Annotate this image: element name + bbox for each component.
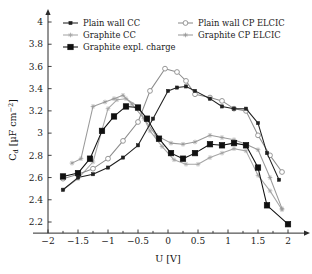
data-point-marker (99, 128, 104, 133)
data-point-marker (121, 138, 126, 143)
x-tick-label: 0 (165, 236, 171, 246)
legend-label-plain-wall-cp-elcic: Plain wall CP ELCIC (198, 18, 285, 28)
x-axis-title: U [V] (155, 253, 180, 264)
data-point-marker (256, 122, 259, 125)
data-point-marker (111, 114, 116, 119)
data-point-marker (220, 105, 223, 108)
x-tick-label: −0.5 (127, 236, 149, 246)
data-point-marker (123, 104, 128, 109)
data-point-marker (285, 222, 290, 227)
y-tick-label: 3.2 (29, 106, 43, 116)
legend-label-plain-wall-cc: Plain wall CC (83, 18, 140, 28)
y-tick-label: 3.8 (29, 39, 44, 49)
data-point-marker (277, 178, 280, 181)
data-point-marker (69, 21, 72, 24)
series-line (63, 86, 279, 189)
y-axis-title: Cd [µF cm−2] (7, 99, 20, 161)
data-point-marker (256, 133, 261, 138)
legend-label-graphite-cc: Graphite CC (83, 30, 136, 40)
legend-entry-plain-wall-cp-elcic[interactable]: Plain wall CP ELCIC (178, 18, 285, 28)
data-point-marker (75, 170, 80, 175)
legend-label-graphite-cp-elcic: Graphite CP ELCIC (198, 30, 281, 40)
series-line (72, 95, 282, 208)
data-point-marker (220, 98, 225, 103)
data-point-marker (255, 165, 260, 170)
legend-entry-graphite-cp-elcic[interactable]: Graphite CP ELCIC (178, 30, 281, 40)
data-point-marker (265, 152, 268, 155)
legend-entry-graphite-expl-charge[interactable]: Graphite expl. charge (63, 42, 176, 52)
data-point-marker (264, 203, 269, 208)
series-graphite-expl-charge (60, 104, 290, 227)
y-tick-label: 2.6 (29, 173, 44, 183)
data-point-marker (87, 156, 92, 161)
data-point-marker (166, 89, 169, 92)
legend-entry-plain-wall-cc[interactable]: Plain wall CC (63, 18, 140, 28)
legend-entry-graphite-cc[interactable]: Graphite CC (63, 30, 136, 40)
data-point-marker (151, 117, 154, 120)
x-tick-label: 0.5 (191, 236, 206, 246)
x-tick-label: −1.5 (67, 236, 89, 246)
y-tick-label: 2.4 (29, 195, 44, 205)
data-point-marker (168, 150, 173, 155)
data-point-marker (208, 97, 211, 100)
svg-text:Cd [µF cm−2]: Cd [µF cm−2] (7, 99, 20, 161)
data-point-marker (148, 88, 153, 93)
data-point-marker (175, 70, 180, 75)
y-tick-label: 2.8 (29, 151, 44, 161)
data-point-marker (243, 143, 248, 148)
data-point-marker (183, 21, 188, 26)
y-tick-label: 3.4 (29, 84, 44, 94)
chart-svg: −2−1.5−1−0.500.511.522.22.42.62.833.23.4… (0, 0, 312, 274)
data-point-marker (61, 188, 64, 191)
data-point-marker (280, 170, 285, 175)
x-axis-arrow (304, 231, 310, 236)
data-point-marker (232, 107, 235, 110)
data-point-marker (207, 142, 212, 147)
y-tick-label: 2.2 (29, 217, 43, 227)
data-series (60, 66, 290, 227)
data-point-marker (68, 44, 73, 49)
data-point-marker (60, 174, 65, 179)
data-point-marker (135, 105, 140, 110)
series-graphite-cp-elcic (70, 93, 285, 211)
y-tick-label: 3 (37, 128, 43, 138)
data-point-marker (136, 144, 139, 147)
data-point-marker (91, 166, 96, 171)
x-tick-label: −1 (101, 236, 114, 246)
y-axis-arrow (45, 9, 50, 15)
data-point-marker (156, 136, 161, 141)
data-point-marker (175, 86, 178, 89)
data-point-marker (184, 78, 189, 83)
data-point-marker (121, 156, 124, 159)
series-plain-wall-cp-elcic (61, 66, 285, 181)
data-point-marker (136, 120, 141, 125)
data-point-marker (76, 176, 79, 179)
data-point-marker (193, 89, 196, 92)
series-line (63, 106, 288, 224)
data-point-marker (106, 166, 109, 169)
chart-legend: Plain wall CCPlain wall CP ELCICGraphite… (63, 18, 285, 52)
capacitance-vs-potential-chart: −2−1.5−1−0.500.511.522.22.42.62.833.23.4… (0, 0, 312, 274)
series-plain-wall-cc (61, 85, 280, 192)
data-point-marker (180, 156, 185, 161)
series-line (63, 69, 282, 179)
data-point-marker (184, 85, 187, 88)
legend-label-graphite-expl-charge: Graphite expl. charge (83, 42, 176, 52)
x-tick-label: 2 (285, 236, 291, 246)
data-point-marker (163, 66, 168, 71)
data-point-marker (144, 116, 149, 121)
data-point-marker (91, 173, 94, 176)
y-tick-label: 3.6 (29, 62, 44, 72)
data-point-marker (231, 140, 236, 145)
data-point-marker (106, 156, 111, 161)
data-point-marker (192, 150, 197, 155)
x-tick-label: 1.5 (251, 236, 266, 246)
y-tick-label: 4 (37, 17, 43, 27)
data-point-marker (219, 143, 224, 148)
x-tick-label: −2 (41, 236, 54, 246)
x-tick-label: 1 (225, 236, 231, 246)
data-point-marker (244, 107, 247, 110)
